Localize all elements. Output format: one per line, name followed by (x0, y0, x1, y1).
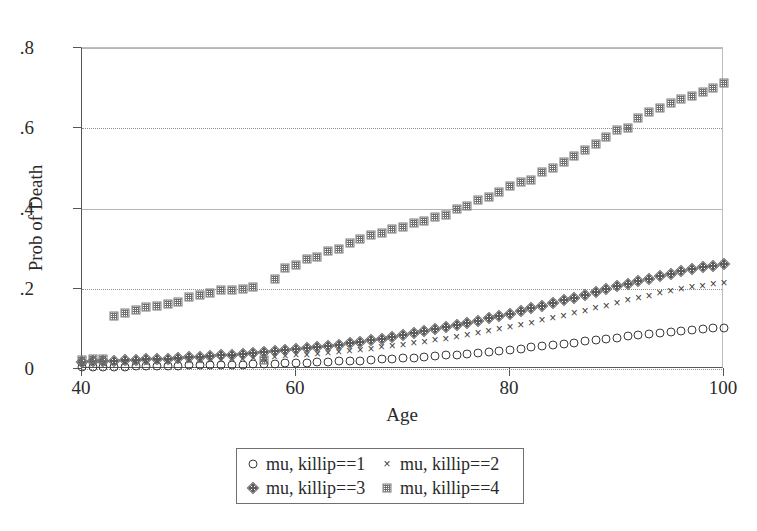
data-point-series-1 (409, 353, 418, 362)
data-point-series-4 (655, 104, 664, 113)
data-point-series-2: × (569, 308, 580, 319)
chart-legend: mu, killip==1 × mu, killip==2 mu, killip… (236, 448, 524, 504)
data-point-series-2: × (344, 345, 355, 356)
data-point-series-4 (506, 182, 515, 191)
data-point-series-4 (613, 126, 622, 135)
data-point-series-1 (377, 355, 386, 364)
data-point-series-2: × (248, 353, 259, 364)
data-point-series-3 (536, 299, 549, 312)
data-point-series-3 (450, 319, 463, 332)
x-cross-icon: × (381, 458, 393, 470)
data-point-series-4 (441, 210, 450, 219)
data-point-series-3 (718, 258, 731, 271)
data-point-series-2: × (216, 354, 227, 365)
legend-label: mu, killip==2 (400, 455, 499, 473)
data-point-series-1 (698, 325, 707, 334)
data-point-series-4 (698, 88, 707, 97)
data-point-series-1 (709, 324, 718, 333)
data-point-series-1 (666, 328, 675, 337)
data-point-series-1 (527, 343, 536, 352)
data-point-series-2: × (644, 290, 655, 301)
gridline (82, 369, 722, 370)
data-point-series-1 (324, 357, 333, 366)
data-point-series-4 (602, 133, 611, 142)
data-point-series-2: × (323, 347, 334, 358)
data-point-series-3 (632, 275, 645, 288)
data-point-series-1 (548, 340, 557, 349)
data-point-series-3 (322, 339, 335, 352)
data-point-series-3 (354, 335, 367, 348)
data-point-series-2: × (547, 313, 558, 324)
gridline (82, 48, 722, 49)
data-point-series-1 (720, 323, 729, 332)
data-point-series-3 (686, 263, 699, 276)
data-point-series-4 (313, 252, 322, 261)
data-point-series-4 (570, 152, 579, 161)
x-axis-label: Age (81, 404, 723, 426)
data-point-series-3 (675, 265, 688, 278)
data-point-series-3 (129, 353, 142, 366)
data-point-series-3 (268, 345, 281, 358)
data-point-series-4 (591, 140, 600, 149)
data-point-series-3 (696, 261, 709, 274)
data-point-series-2: × (333, 346, 344, 357)
legend-item-killip-3[interactable]: mu, killip==3 (247, 479, 381, 497)
data-point-series-3 (140, 353, 153, 366)
data-point-series-4 (388, 225, 397, 234)
data-point-series-3 (215, 349, 228, 362)
data-point-series-2: × (558, 310, 569, 321)
data-point-series-3 (418, 325, 431, 338)
data-point-series-2: × (151, 357, 162, 368)
data-point-series-3 (108, 354, 121, 367)
data-point-series-4 (463, 202, 472, 211)
data-point-series-3 (236, 347, 249, 360)
data-point-series-2: × (301, 349, 312, 360)
data-point-series-2: × (515, 319, 526, 330)
data-point-series-3 (611, 280, 624, 293)
data-point-series-3 (493, 310, 506, 323)
data-point-series-2: × (312, 348, 323, 359)
data-point-series-4 (99, 354, 108, 363)
data-point-series-1 (516, 344, 525, 353)
legend-item-killip-1[interactable]: mu, killip==1 (247, 455, 381, 473)
plot-area: ××××××××××××××××××××××××××××××××××××××××… (81, 47, 723, 368)
data-point-series-1 (227, 360, 236, 369)
data-point-series-3 (375, 332, 388, 345)
data-point-series-2: × (355, 344, 366, 355)
data-point-series-1 (677, 326, 686, 335)
data-point-series-2: × (483, 326, 494, 337)
y-axis-tick-mark (73, 208, 81, 209)
data-point-series-3 (290, 343, 303, 356)
x-axis-tick-label: 80 (500, 378, 519, 397)
data-point-series-4 (484, 193, 493, 202)
data-point-series-4 (356, 234, 365, 243)
data-point-series-4 (538, 168, 547, 177)
data-point-series-3 (482, 312, 495, 325)
y-axis-tick-label: 0 (0, 359, 34, 378)
data-point-series-2: × (419, 336, 430, 347)
data-point-series-3 (161, 352, 174, 365)
data-point-series-3 (472, 314, 485, 327)
data-point-series-2: × (430, 335, 441, 346)
data-point-series-4 (88, 355, 97, 364)
x-axis-tick-label: 100 (709, 378, 738, 397)
data-point-series-2: × (226, 354, 237, 365)
data-point-series-4 (324, 246, 333, 255)
data-point-series-3 (707, 260, 720, 273)
data-point-series-2: × (494, 324, 505, 335)
x-axis-tick-label: 40 (72, 378, 91, 397)
data-point-series-2: × (87, 358, 98, 369)
data-point-series-4 (409, 219, 418, 228)
data-point-series-2: × (184, 355, 195, 366)
legend-item-killip-4[interactable]: mu, killip==4 (381, 479, 515, 497)
data-point-series-3 (225, 348, 238, 361)
data-point-series-1 (613, 333, 622, 342)
data-point-series-2: × (526, 317, 537, 328)
legend-item-killip-2[interactable]: × mu, killip==2 (381, 455, 515, 473)
data-point-series-1 (452, 350, 461, 359)
data-point-series-1 (292, 358, 301, 367)
data-point-series-3 (664, 268, 677, 281)
data-point-series-3 (258, 346, 271, 359)
data-point-series-3 (204, 350, 217, 363)
data-point-series-1 (538, 342, 547, 351)
